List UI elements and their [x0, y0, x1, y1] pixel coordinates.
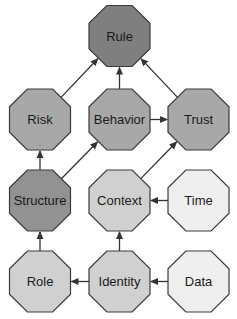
node-label: Time	[184, 193, 212, 208]
arrow-risk-to-rule	[61, 59, 98, 98]
node-trust: Trust	[168, 89, 229, 150]
node-label: Trust	[184, 112, 214, 127]
node-risk: Risk	[10, 89, 71, 150]
arrow-trust-to-rule	[141, 59, 177, 97]
node-label: Role	[27, 274, 54, 289]
node-data: Data	[168, 251, 229, 312]
node-label: Data	[185, 274, 213, 289]
node-identity: Identity	[89, 251, 150, 312]
node-label: Risk	[27, 112, 53, 127]
node-label: Rule	[106, 29, 133, 44]
arrow-structure-to-behavior	[61, 142, 97, 179]
node-structure: Structure	[10, 170, 71, 231]
node-label: Behavior	[94, 112, 146, 127]
diagram-canvas: RuleRiskBehaviorTrustStructureContextTim…	[0, 0, 237, 319]
node-behavior: Behavior	[89, 89, 150, 150]
node-label: Context	[97, 193, 142, 208]
node-label: Structure	[14, 193, 67, 208]
node-context: Context	[89, 170, 150, 231]
node-time: Time	[168, 170, 229, 231]
node-role: Role	[10, 251, 71, 312]
node-label: Identity	[99, 274, 141, 289]
nodes-layer: RuleRiskBehaviorTrustStructureContextTim…	[10, 6, 230, 313]
arrow-context-to-trust	[141, 142, 177, 179]
node-rule: Rule	[89, 6, 150, 67]
